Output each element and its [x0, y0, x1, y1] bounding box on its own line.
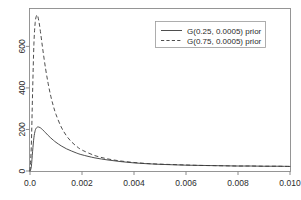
y-tick-label: 200: [17, 122, 27, 136]
x-tick-label: 0.0: [24, 178, 36, 188]
x-tick-label: 0.004: [123, 178, 145, 188]
x-tick-label: 0.002: [71, 178, 93, 188]
x-tick-label: 0.006: [175, 178, 197, 188]
y-tick-label: 0: [17, 168, 27, 173]
x-tick-label: 0.010: [279, 178, 301, 188]
legend-label-g025: G(0.25, 0.0005) prior: [187, 27, 262, 36]
plot-canvas: 0.00.0020.0040.0060.0080.010 0200400600 …: [0, 0, 301, 200]
y-tick-label: 600: [17, 39, 27, 53]
legend-label-g075: G(0.75, 0.0005) prior: [187, 37, 262, 46]
y-tick-label: 400: [17, 81, 27, 95]
legend: G(0.25, 0.0005) prior G(0.75, 0.0005) pr…: [156, 22, 266, 48]
gamma-prior-density-chart: 0.00.0020.0040.0060.0080.010 0200400600 …: [0, 0, 301, 200]
x-tick-label: 0.008: [227, 178, 249, 188]
